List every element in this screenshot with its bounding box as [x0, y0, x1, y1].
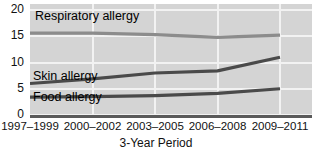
x-tick-2: 2003–2005	[125, 120, 185, 133]
y-axis-tick-labels: 20 15 10 5 0	[0, 0, 28, 120]
series-label-food-allergy: Food allergy	[33, 91, 102, 104]
y-tick-20: 20	[0, 3, 24, 15]
y-tick-5: 5	[0, 82, 24, 94]
chart-figure: 20 15 10 5 0 Respiratory allergy Skin al…	[0, 0, 312, 153]
x-axis-title: 3-Year Period	[0, 136, 312, 150]
x-tick-4: 2009–2011	[250, 120, 310, 133]
series-label-skin-allergy: Skin allergy	[33, 70, 98, 83]
y-tick-0: 0	[0, 108, 24, 120]
y-tick-10: 10	[0, 56, 24, 68]
y-tick-15: 15	[0, 29, 24, 41]
x-tick-1: 2000–2002	[63, 120, 123, 133]
series-label-respiratory-allergy: Respiratory allergy	[35, 10, 139, 23]
series-line-respiratory-allergy	[30, 33, 280, 37]
x-tick-0: 1997–1999	[0, 120, 60, 133]
x-axis-tick-labels: 1997–19992000–20022003–20052006–20082009…	[0, 120, 312, 134]
x-axis-line	[30, 115, 312, 118]
x-tick-3: 2006–2008	[188, 120, 248, 133]
